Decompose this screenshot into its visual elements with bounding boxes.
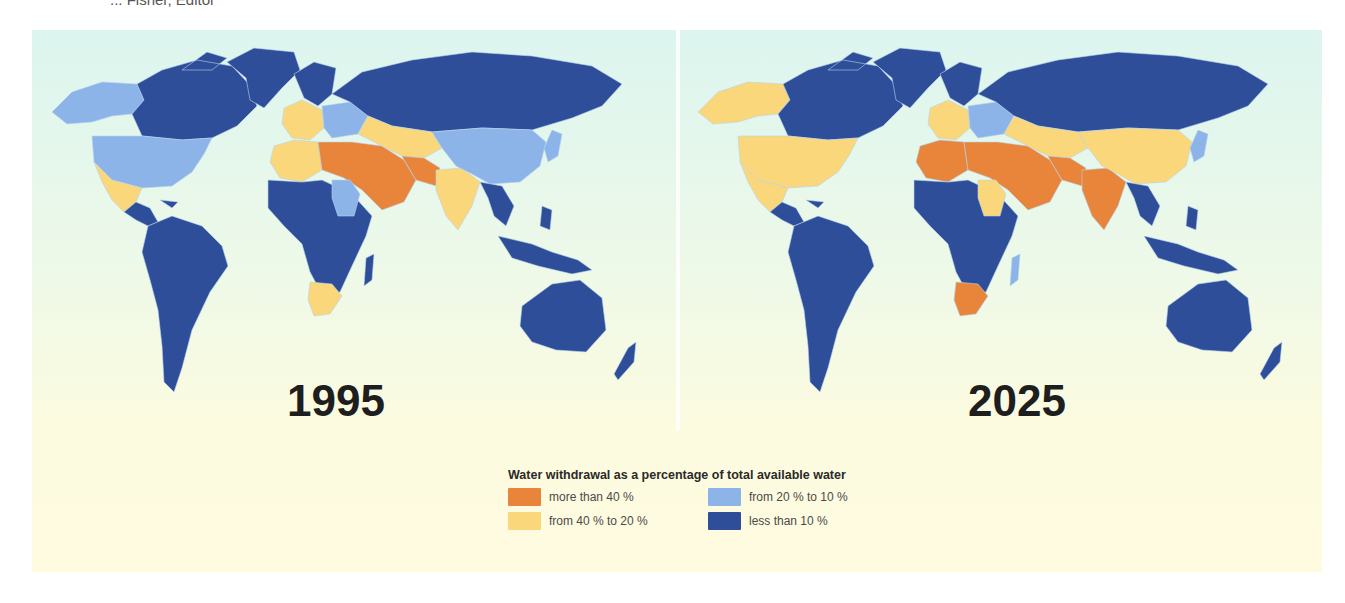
region-new-zealand	[614, 342, 636, 380]
legend-label: from 20 % to 10 %	[749, 490, 848, 504]
region-madagascar	[1010, 254, 1020, 286]
legend-label: from 40 % to 20 %	[549, 514, 648, 528]
legend-label: less than 10 %	[749, 514, 828, 528]
region-indonesia-philippines	[1144, 206, 1238, 274]
region-south-america	[142, 216, 228, 392]
region-northern-europe	[940, 62, 982, 106]
map-2025	[678, 30, 1322, 430]
legend: Water withdrawal as a percentage of tota…	[508, 468, 968, 530]
region-new-zealand	[1260, 342, 1282, 380]
region-south-america	[788, 216, 874, 392]
region-india	[1082, 168, 1126, 230]
water-withdrawal-figure: 1995 2025 Water withdrawal as a percenta…	[32, 30, 1322, 572]
year-label-1995: 1995	[287, 376, 385, 426]
legend-item-more-than-40: more than 40 %	[508, 488, 708, 506]
legend-swatch-dark-blue	[708, 512, 741, 530]
top-caption: ... Fisher, Editor	[110, 0, 215, 8]
region-southeast-asia	[480, 182, 514, 226]
legend-title: Water withdrawal as a percentage of tota…	[508, 468, 968, 482]
world-map-svg	[32, 30, 676, 430]
region-japan-korea	[1190, 130, 1208, 162]
legend-item-40-to-20: from 40 % to 20 %	[508, 512, 708, 530]
map-1995	[32, 30, 676, 430]
region-north-africa-west-	[270, 140, 322, 182]
region-northern-europe	[294, 62, 336, 106]
region-japan-korea	[544, 130, 562, 162]
legend-label: more than 40 %	[549, 490, 634, 504]
region-india	[436, 168, 480, 230]
region-australia	[520, 280, 606, 352]
legend-swatch-orange	[508, 488, 541, 506]
legend-swatch-light-blue	[708, 488, 741, 506]
region-alaska	[698, 82, 790, 124]
region-indonesia-philippines	[498, 206, 592, 274]
region-australia	[1166, 280, 1252, 352]
region-southeast-asia	[1126, 182, 1160, 226]
year-label-2025: 2025	[968, 376, 1066, 426]
region-alaska	[52, 82, 144, 124]
region-madagascar	[364, 254, 374, 286]
legend-swatch-light-yellow	[508, 512, 541, 530]
legend-item-less-than-10: less than 10 %	[708, 512, 928, 530]
legend-item-20-to-10: from 20 % to 10 %	[708, 488, 928, 506]
region-north-africa-west-	[916, 140, 968, 182]
world-map-svg	[678, 30, 1322, 430]
